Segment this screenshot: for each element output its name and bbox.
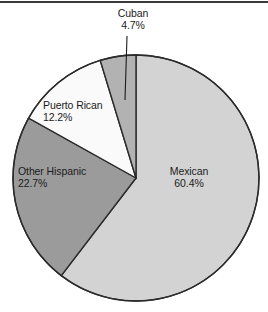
pie-chart-graphic xyxy=(0,0,268,312)
pie-chart-figure: Cuban 4.7% Mexican 60.4% Other Hispanic … xyxy=(0,0,268,312)
